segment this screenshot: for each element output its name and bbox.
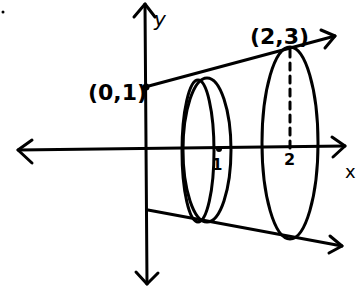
y-axis-label: y bbox=[153, 7, 167, 31]
point-label-0-1: (0,1) bbox=[88, 80, 147, 105]
solid-of-revolution-diagram: x y 1 2 (0,1) (2,3) bbox=[0, 0, 362, 294]
tick-label-2: 2 bbox=[284, 150, 295, 169]
disc-at-x-1 bbox=[182, 78, 231, 222]
x-axis-left-arrow-icon bbox=[18, 140, 32, 163]
y-axis: y bbox=[134, 4, 167, 284]
stray-dot bbox=[2, 11, 5, 14]
disc-at-x-2 bbox=[262, 47, 318, 239]
x-axis-label: x bbox=[345, 161, 356, 182]
tick-label-1: 1 bbox=[212, 156, 222, 174]
point-label-2-3: (2,3) bbox=[250, 24, 309, 49]
x-axis: x bbox=[18, 137, 356, 182]
disc-center-dot bbox=[216, 146, 222, 152]
lower-boundary-line bbox=[148, 210, 342, 253]
